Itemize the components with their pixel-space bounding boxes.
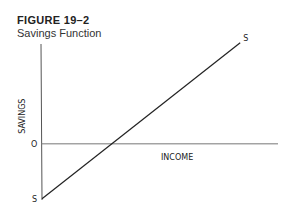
savings-line [42, 43, 240, 199]
savings-chart: O S S INCOME SAVINGS [0, 0, 291, 212]
origin-label: O [31, 140, 37, 149]
series-end-label: S [243, 34, 248, 43]
y-axis-label: SAVINGS [18, 99, 27, 134]
x-axis-label: INCOME [161, 153, 193, 162]
series-start-label: S [32, 195, 37, 204]
y-axis [41, 44, 42, 200]
